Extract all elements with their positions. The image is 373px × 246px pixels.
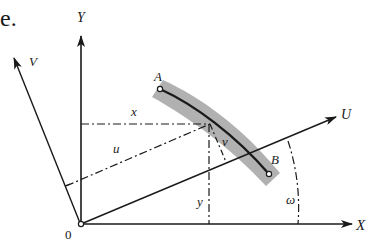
- point-b-label: B: [271, 152, 279, 167]
- v-axis: [14, 58, 80, 223]
- y-coordinate-label: y: [195, 194, 203, 209]
- y-axis-label: Y: [77, 10, 87, 25]
- u-axis-label: U: [341, 107, 352, 122]
- v-coordinate-label: v: [222, 134, 228, 149]
- shaded-body-band: [152, 80, 280, 186]
- point-a-marker: [157, 86, 162, 91]
- point-a-label: A: [153, 69, 162, 84]
- x-coordinate-label: x: [130, 104, 137, 119]
- coordinate-rotation-diagram: e. Y X U V 0 A B x y u v ω: [0, 0, 373, 246]
- corner-label: e.: [0, 5, 17, 31]
- u-coordinate-line: [66, 124, 210, 186]
- x-axis-label: X: [355, 217, 366, 233]
- origin-label: 0: [65, 227, 72, 242]
- omega-angle-arc: [288, 141, 299, 224]
- v-axis-label: V: [29, 54, 39, 69]
- u-coordinate-label: u: [113, 141, 120, 156]
- omega-angle-label: ω: [286, 192, 295, 207]
- point-b-marker: [266, 171, 271, 176]
- origin-point: [78, 221, 83, 226]
